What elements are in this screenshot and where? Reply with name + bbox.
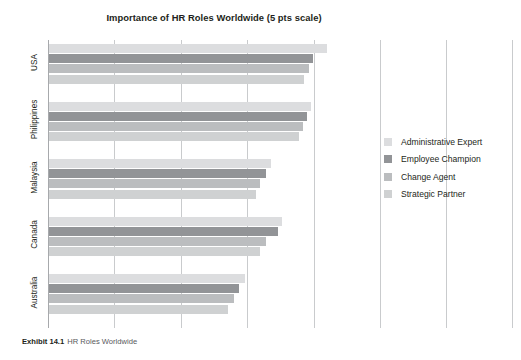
caption-title: HR Roles Worldwide [67, 337, 137, 346]
bar-malaysia-change-agent [49, 179, 260, 188]
bar-philippines-strategic-partner [49, 132, 299, 141]
chart-plot-area [48, 40, 380, 328]
bar-australia-change-agent [49, 294, 234, 303]
bar-usa-change-agent [49, 64, 309, 73]
bar-malaysia-employee-champion [49, 169, 266, 178]
exhibit-figure: Importance of HR Roles Worldwide (5 pts … [0, 0, 521, 360]
category-label-malaysia: Malaysia [30, 147, 39, 207]
legend-item-change-agent[interactable]: Change Agent [384, 168, 517, 186]
legend-item-administrative-expert[interactable]: Administrative Expert [384, 133, 517, 151]
legend-item-strategic-partner[interactable]: Strategic Partner [384, 186, 517, 204]
legend-swatch-icon [384, 138, 392, 146]
bar-usa-administrative-expert [49, 44, 327, 53]
legend-swatch-icon [384, 173, 392, 181]
bar-philippines-employee-champion [49, 112, 307, 121]
gridline-4 [314, 40, 315, 328]
bar-canada-administrative-expert [49, 217, 282, 226]
gridline-5 [380, 40, 381, 328]
bar-canada-strategic-partner [49, 247, 260, 256]
category-label-philippines: Philippines [30, 90, 39, 150]
category-label-australia: Australia [30, 262, 39, 322]
bar-australia-employee-champion [49, 284, 239, 293]
figure-caption: Exhibit 14.1HR Roles Worldwide [22, 337, 137, 346]
bar-philippines-change-agent [49, 122, 303, 131]
chart-legend: Administrative ExpertEmployee ChampionCh… [384, 133, 517, 203]
chart-title: Importance of HR Roles Worldwide (5 pts … [48, 12, 380, 23]
bar-usa-strategic-partner [49, 75, 304, 84]
category-label-usa: USA [30, 32, 39, 92]
bar-philippines-administrative-expert [49, 102, 311, 111]
legend-swatch-icon [384, 155, 392, 163]
legend-label: Change Agent [401, 172, 455, 182]
legend-label: Employee Champion [401, 154, 481, 164]
bar-australia-administrative-expert [49, 274, 245, 283]
legend-swatch-icon [384, 190, 392, 198]
bar-malaysia-administrative-expert [49, 159, 271, 168]
legend-item-employee-champion[interactable]: Employee Champion [384, 151, 517, 169]
bar-malaysia-strategic-partner [49, 190, 256, 199]
caption-exhibit-number: Exhibit 14.1 [22, 337, 64, 346]
category-label-canada: Canada [30, 205, 39, 265]
legend-label: Strategic Partner [401, 189, 465, 199]
bar-canada-change-agent [49, 237, 266, 246]
bar-canada-employee-champion [49, 227, 278, 236]
bar-australia-strategic-partner [49, 305, 228, 314]
legend-label: Administrative Expert [401, 137, 482, 147]
bar-usa-employee-champion [49, 54, 313, 63]
